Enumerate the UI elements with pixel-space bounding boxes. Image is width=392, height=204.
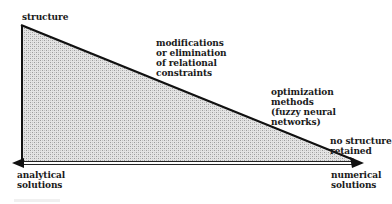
arrowhead-right-icon	[350, 157, 364, 168]
cropped-caption	[14, 199, 60, 202]
label-modifications: modifications or elimination of relation…	[156, 38, 226, 78]
label-numerical-solutions: numerical solutions	[331, 170, 381, 190]
label-structure: structure	[22, 12, 68, 22]
label-no-structure: no structure retained	[330, 136, 392, 156]
arrowhead-left-icon	[12, 158, 24, 168]
label-analytical-solutions: analytical solutions	[17, 170, 65, 190]
label-optimization-methods: optimization methods (fuzzy neural netwo…	[271, 87, 336, 127]
